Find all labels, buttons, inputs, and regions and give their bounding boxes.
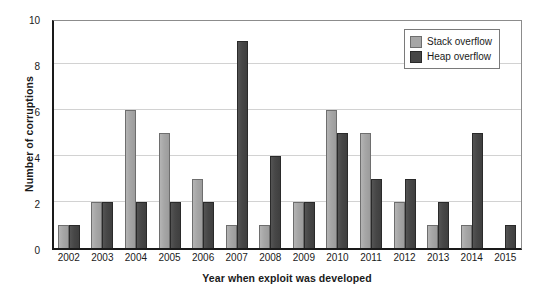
- bar-group: [220, 20, 254, 248]
- bar-group: [119, 20, 153, 248]
- bar-group: [321, 20, 355, 248]
- x-tick-label: 2014: [455, 252, 489, 263]
- x-tick-label: 2002: [52, 252, 86, 263]
- x-tick-label: 2008: [253, 252, 287, 263]
- bar-heap-2006: [203, 202, 214, 248]
- x-axis-title: Year when exploit was developed: [52, 272, 522, 284]
- bar-stack-2012: [394, 202, 405, 248]
- bar-group: [52, 20, 86, 248]
- bar-stack-2010: [326, 110, 337, 248]
- y-tick-label: 0: [34, 245, 40, 256]
- bar-heap-2010: [337, 133, 348, 248]
- bar-heap-2002: [69, 225, 80, 248]
- bar-group: [253, 20, 287, 248]
- bar-heap-2004: [136, 202, 147, 248]
- bar-group: [287, 20, 321, 248]
- bar-stack-2014: [461, 225, 472, 248]
- bar-stack-2006: [192, 179, 203, 248]
- bar-group: [354, 20, 388, 248]
- x-tick-label: 2006: [186, 252, 220, 263]
- x-tick-label: 2013: [421, 252, 455, 263]
- x-axis-tick-labels: 2002200320042005200620072008200920102011…: [52, 252, 522, 263]
- legend-item-stack: Stack overflow: [410, 34, 492, 49]
- bar-stack-2005: [159, 133, 170, 248]
- bar-stack-2003: [91, 202, 102, 248]
- bar-group: [86, 20, 120, 248]
- x-tick-label: 2004: [119, 252, 153, 263]
- y-tick-label: 8: [34, 61, 40, 72]
- bar-heap-2009: [304, 202, 315, 248]
- x-tick-label: 2012: [388, 252, 422, 263]
- bar-heap-2015: [505, 225, 516, 248]
- x-tick-label: 2007: [220, 252, 254, 263]
- legend-label: Heap overflow: [427, 51, 491, 62]
- x-tick-label: 2003: [86, 252, 120, 263]
- bar-group: [153, 20, 187, 248]
- legend-label: Stack overflow: [427, 36, 492, 47]
- bar-heap-2013: [438, 202, 449, 248]
- x-tick-label: 2011: [354, 252, 388, 263]
- y-axis-tick-labels: 0246810: [0, 20, 46, 250]
- bar-group: [186, 20, 220, 248]
- bar-heap-2014: [472, 133, 483, 248]
- bar-stack-2011: [360, 133, 371, 248]
- stack-swatch-icon: [410, 36, 422, 48]
- bar-stack-2008: [259, 225, 270, 248]
- bar-heap-2011: [371, 179, 382, 248]
- bar-heap-2012: [405, 179, 416, 248]
- x-tick-label: 2009: [287, 252, 321, 263]
- bar-chart: Number of corruptions 0246810 2002200320…: [0, 0, 537, 291]
- x-tick-label: 2015: [489, 252, 523, 263]
- bar-heap-2005: [170, 202, 181, 248]
- bar-stack-2007: [226, 225, 237, 248]
- y-tick-label: 6: [34, 107, 40, 118]
- bar-heap-2003: [102, 202, 113, 248]
- bar-stack-2004: [125, 110, 136, 248]
- y-tick-label: 2: [34, 199, 40, 210]
- x-tick-label: 2005: [153, 252, 187, 263]
- bar-heap-2007: [237, 41, 248, 248]
- bar-heap-2008: [270, 156, 281, 248]
- legend-item-heap: Heap overflow: [410, 49, 492, 64]
- x-tick-label: 2010: [321, 252, 355, 263]
- bar-stack-2009: [293, 202, 304, 248]
- bar-stack-2002: [58, 225, 69, 248]
- y-tick-label: 4: [34, 153, 40, 164]
- y-tick-label: 10: [29, 15, 40, 26]
- legend: Stack overflowHeap overflow: [404, 29, 500, 69]
- heap-swatch-icon: [410, 51, 422, 63]
- bar-stack-2013: [427, 225, 438, 248]
